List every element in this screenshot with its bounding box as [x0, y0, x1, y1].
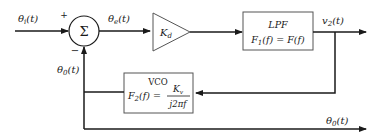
pll-block-diagram: θi(t) Σ + − θe(t) Kd LPF F1(f) = F(f) v2… [0, 0, 382, 135]
summer-plus-sign: + [60, 10, 68, 20]
input-signal-label: θi(t) [18, 13, 38, 26]
lpf-name: LPF [267, 19, 288, 30]
vco-denominator: j2πf [168, 99, 189, 109]
lpf-output-label: v2(t) [322, 15, 344, 28]
vco-name: VCO [147, 77, 168, 87]
feedback-signal-label: θ0(t) [57, 64, 79, 77]
summer-minus-sign: − [71, 45, 79, 56]
output-signal-label: θ0(t) [326, 115, 348, 128]
error-signal-label: θe(t) [108, 13, 130, 26]
summer-symbol: Σ [79, 24, 88, 39]
